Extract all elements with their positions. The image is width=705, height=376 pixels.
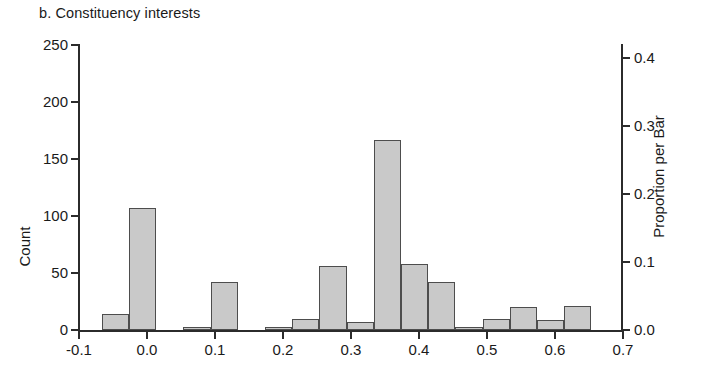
left-tick-label: 250 [43, 36, 68, 53]
right-axis-title: Proportion per Bar [650, 92, 667, 262]
x-tick-label: 0.4 [409, 341, 430, 358]
histogram-bar [428, 282, 455, 330]
histogram-bar [564, 306, 591, 330]
histogram-bar [129, 208, 156, 330]
left-tick-label: 100 [43, 207, 68, 224]
chart-figure: b. Constituency interests 0 50 100 150 2… [0, 0, 705, 376]
x-tick-label: 0.7 [613, 341, 634, 358]
histogram-bar [102, 314, 129, 330]
right-tick-label: 0.0 [634, 321, 655, 338]
histogram-bar [183, 327, 210, 330]
x-tick-label: 0.0 [137, 341, 158, 358]
left-tick-label: 200 [43, 93, 68, 110]
histogram-bar [211, 282, 238, 330]
left-tick-label: 150 [43, 150, 68, 167]
left-axis-line [78, 44, 80, 332]
histogram-bar [537, 320, 564, 330]
histogram-bar [292, 319, 319, 330]
histogram-bar [265, 327, 292, 330]
histogram-bar [483, 319, 510, 330]
histogram-bar [401, 264, 428, 330]
x-tick-label: 0.1 [205, 341, 226, 358]
left-tick-label: 0 [60, 321, 68, 338]
histogram-bar [455, 327, 482, 330]
x-tick-label: 0.3 [341, 341, 362, 358]
left-tick-label: 50 [51, 264, 68, 281]
histogram-bar [319, 266, 346, 330]
x-tick-label: 0.5 [477, 341, 498, 358]
x-tick-label: -0.1 [66, 341, 92, 358]
histogram-bar [347, 322, 374, 330]
left-axis-title: Count [16, 207, 33, 287]
page-title: b. Constituency interests [39, 5, 200, 21]
right-axis-line [621, 44, 623, 332]
histogram-bar [510, 307, 537, 330]
histogram-bar [374, 140, 401, 330]
x-tick-label: 0.6 [545, 341, 566, 358]
x-tick-label: 0.2 [273, 341, 294, 358]
right-tick-label: 0.4 [634, 49, 655, 66]
